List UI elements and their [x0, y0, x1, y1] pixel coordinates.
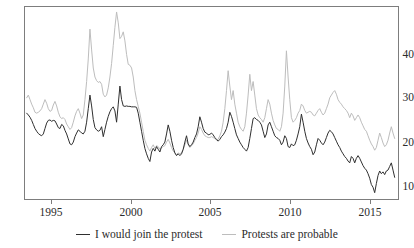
legend-label-1: Protests are probable: [241, 228, 337, 241]
x-tick-mark-2005: [210, 200, 211, 204]
x-tick-label-2005: 2005: [187, 206, 233, 219]
plot-area-frame: [24, 6, 399, 200]
legend: I would join the protest Protests are pr…: [0, 228, 414, 241]
legend-item-i-would-join-the-protest[interactable]: I would join the protest: [76, 228, 202, 241]
clipped-title-sliver: [0, 0, 414, 5]
x-tick-mark-2010: [290, 200, 291, 204]
line-swatch-icon: [222, 234, 236, 235]
x-tick-label-1995: 1995: [28, 206, 74, 219]
x-tick-mark-2000: [131, 200, 132, 204]
x-tick-label-2000: 2000: [108, 206, 154, 219]
series-canvas: [25, 7, 398, 199]
x-tick-mark-2015: [370, 200, 371, 204]
x-tick-mark-1995: [51, 200, 52, 204]
legend-label-0: I would join the protest: [95, 228, 202, 241]
x-tick-label-2015: 2015: [347, 206, 393, 219]
line-swatch-icon: [76, 234, 90, 235]
x-tick-label-2010: 2010: [267, 206, 313, 219]
legend-item-protests-are-probable[interactable]: Protests are probable: [222, 228, 337, 241]
chart-root: 40 30 20 10 1995 2000 2005 2010 2015 I w…: [0, 0, 414, 248]
